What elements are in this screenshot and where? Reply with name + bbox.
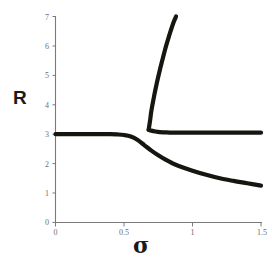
x-tick-label-0-5: 0.5 (119, 228, 129, 237)
y-tick-label-5: 5 (45, 71, 49, 80)
chart-figure: 7 6 5 4 3 2 1 0 0 0.5 1 1.5 R (0, 0, 272, 266)
y-tick-label-4: 4 (45, 101, 49, 110)
x-tick-label-1-5: 1.5 (257, 228, 267, 237)
x-axis-ticks (56, 223, 262, 227)
x-tick-label-0: 0 (54, 228, 58, 237)
data-curves (56, 17, 262, 186)
x-tick-label-1: 1 (191, 228, 195, 237)
y-tick-label-7: 7 (45, 13, 49, 22)
curve-upper-branch-flat (149, 130, 261, 133)
y-tick-label-3: 3 (45, 130, 49, 139)
y-tick-label-1: 1 (45, 189, 49, 198)
curve-upper-branch-rising (149, 17, 176, 130)
curve-lower-branch (56, 134, 262, 185)
chart-plot-area: 7 6 5 4 3 2 1 0 0 0.5 1 1.5 (0, 0, 272, 266)
x-axis-label: σ (133, 234, 149, 256)
x-axis-tick-labels: 0 0.5 1 1.5 (54, 228, 268, 237)
axes-group (55, 16, 262, 223)
y-tick-label-6: 6 (45, 42, 49, 51)
y-tick-label-2: 2 (45, 160, 49, 169)
y-axis-tick-labels: 7 6 5 4 3 2 1 0 (45, 13, 49, 228)
y-tick-label-0: 0 (45, 218, 49, 227)
y-axis-label: R (13, 88, 27, 107)
